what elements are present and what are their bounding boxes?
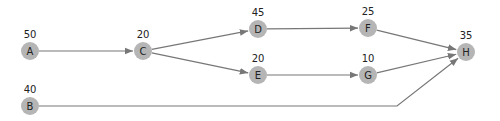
node-value: 35 — [460, 30, 473, 41]
edge-C-E — [152, 53, 248, 73]
node-label: F — [365, 23, 371, 34]
edge-F-H — [377, 30, 457, 49]
edge-B-H — [39, 58, 458, 106]
node-H: H35 — [457, 30, 475, 61]
node-value: 20 — [252, 53, 265, 64]
node-value: 20 — [137, 29, 150, 40]
node-label: D — [254, 24, 262, 35]
node-G: G10 — [359, 53, 377, 84]
node-label: G — [364, 70, 372, 81]
node-label: C — [140, 46, 147, 57]
node-value: 45 — [252, 7, 265, 18]
node-C: C20 — [134, 29, 152, 60]
node-label: H — [462, 47, 470, 58]
network-diagram: A50B40C20D45E20F25G10H35 — [0, 0, 500, 121]
edge-D-F — [267, 28, 358, 29]
node-value: 50 — [24, 29, 37, 40]
edge-C-D — [152, 31, 248, 49]
node-label: E — [255, 70, 261, 81]
node-F: F25 — [359, 6, 377, 37]
node-value: 10 — [362, 53, 375, 64]
node-A: A50 — [21, 29, 39, 60]
node-value: 25 — [362, 6, 375, 17]
node-E: E20 — [249, 53, 267, 84]
node-label: A — [27, 46, 34, 57]
node-B: B40 — [21, 84, 39, 115]
node-D: D45 — [249, 7, 267, 38]
node-label: B — [27, 101, 34, 112]
edge-G-H — [377, 54, 457, 73]
node-value: 40 — [24, 84, 37, 95]
